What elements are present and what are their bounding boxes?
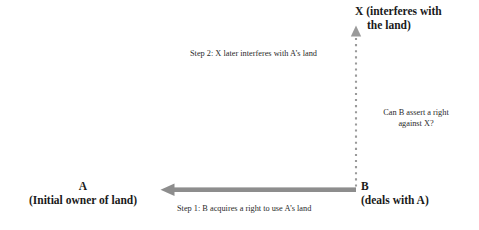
- vertical-arrowhead-up: [351, 26, 361, 37]
- node-b-description: (deals with A): [361, 194, 429, 208]
- caption-question: Can B assert a right against X?: [368, 107, 464, 129]
- caption-step-1: Step 1: B acquires a right to use A’s la…: [177, 203, 311, 214]
- node-a-label: A (Initial owner of land): [0, 180, 166, 207]
- step-1-arrow-svg: [160, 183, 356, 197]
- caption-question-line1: Can B assert a right: [368, 107, 464, 118]
- caption-question-line2: against X?: [368, 118, 464, 129]
- step-2-arrow-svg: [349, 24, 363, 188]
- step-1-arrow-solid: [160, 183, 356, 197]
- node-a-name: A: [0, 180, 166, 194]
- node-x-line2: the land): [355, 18, 442, 32]
- step-2-arrow-dotted: [349, 24, 363, 188]
- node-x-label: X (interferes with the land): [355, 4, 442, 32]
- diagram-canvas: X (interferes with the land) Step 2: X l…: [0, 0, 479, 230]
- horizontal-shaft: [173, 187, 356, 192]
- node-b-label: B (deals with A): [361, 180, 429, 207]
- node-x-line1: X (interferes with: [355, 4, 442, 18]
- node-a-description: (Initial owner of land): [0, 194, 166, 208]
- node-b-name: B: [361, 180, 429, 194]
- caption-step-2: Step 2: X later interferes with A’s land: [190, 48, 317, 59]
